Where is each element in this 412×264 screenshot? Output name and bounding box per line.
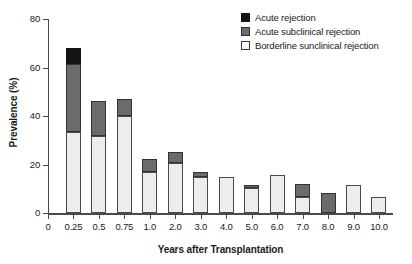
bar-segment-5.0-borderline (244, 188, 259, 213)
bar-6.0 (270, 175, 285, 213)
bar-segment-0.75-borderline (117, 116, 132, 213)
bar-8.0 (321, 193, 336, 213)
bar-segment-0.25-acute (66, 48, 81, 64)
bar-segment-0.25-borderline (66, 132, 81, 213)
bar-10.0 (371, 197, 386, 213)
x-tick-8.0 (328, 214, 329, 219)
prevalence-stacked-bar-chart: Prevalence (%) 020406080 00.250.50.751.0… (0, 0, 412, 264)
black-square-swatch (241, 13, 250, 22)
bar-segment-1.0-borderline (142, 172, 157, 213)
bar-segment-0.5-acute (91, 101, 106, 136)
bar-0.5 (91, 101, 106, 213)
bar-segment-7.0-borderline (295, 197, 310, 213)
x-tick-0 (48, 214, 49, 219)
bar-segment-2.0-borderline (168, 163, 183, 213)
x-axis-title: Years after Transplantation (48, 244, 393, 255)
bar-9.0 (346, 185, 361, 213)
bar-0.75 (117, 99, 132, 213)
x-tick-label-10.0: 10.0 (357, 222, 401, 232)
bar-0.25 (66, 48, 81, 213)
x-tick-0.25 (73, 214, 74, 219)
bar-4.0 (219, 177, 234, 213)
bar-segment-10.0-borderline (371, 197, 386, 213)
x-tick-2.0 (175, 214, 176, 219)
bar-segment-8.0-acute (321, 193, 336, 213)
bar-7.0 (295, 184, 310, 213)
bar-5.0 (244, 185, 259, 213)
x-tick-0.75 (124, 214, 125, 219)
bar-1.0 (142, 159, 157, 213)
legend-item: Borderline sunclinical rejection (241, 39, 379, 52)
bar-segment-0.75-acute (117, 99, 132, 116)
bar-3.0 (193, 172, 208, 213)
bar-segment-5.0-acute (244, 185, 259, 188)
bar-segment-4.0-borderline (219, 177, 234, 213)
x-tick-6.0 (277, 214, 278, 219)
dark-gray-square-swatch (241, 27, 250, 36)
x-tick-1.0 (150, 214, 151, 219)
legend-item: Acute subclinical rejection (241, 25, 379, 38)
bar-segment-2.0-acute (168, 152, 183, 163)
legend-item-label: Acute subclinical rejection (255, 27, 360, 37)
x-tick-0.5 (99, 214, 100, 219)
bar-segment-3.0-borderline (193, 177, 208, 213)
x-tick-5.0 (252, 214, 253, 219)
light-square-swatch (241, 41, 250, 50)
bar-segment-0.5-borderline (91, 136, 106, 213)
x-tick-9.0 (354, 214, 355, 219)
legend-item-label: Borderline sunclinical rejection (255, 41, 379, 51)
bar-2.0 (168, 152, 183, 213)
bar-segment-3.0-acute (193, 172, 208, 178)
x-tick-3.0 (201, 214, 202, 219)
x-tick-10.0 (379, 214, 380, 219)
x-tick-7.0 (303, 214, 304, 219)
bar-segment-0.25-acute (66, 64, 81, 132)
bar-segment-1.0-acute (142, 159, 157, 172)
chart-legend: Acute rejectionAcute subclinical rejecti… (241, 11, 379, 53)
bar-segment-7.0-acute (295, 184, 310, 196)
legend-item-label: Acute rejection (255, 13, 316, 23)
legend-item: Acute rejection (241, 11, 379, 24)
bar-segment-6.0-borderline (270, 175, 285, 213)
bar-segment-9.0-borderline (346, 185, 361, 213)
x-tick-4.0 (226, 214, 227, 219)
